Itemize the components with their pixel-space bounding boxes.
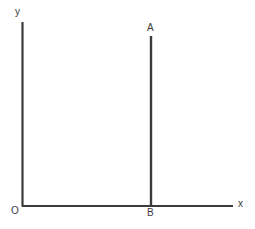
y-axis-label: y [15,7,20,17]
point-label-b: B [147,208,154,218]
figure-canvas [0,0,255,229]
origin-label: O [11,206,19,216]
geometry-figure: y x O A B [0,0,255,229]
x-axis-label: x [238,199,243,209]
point-label-a: A [147,23,154,33]
